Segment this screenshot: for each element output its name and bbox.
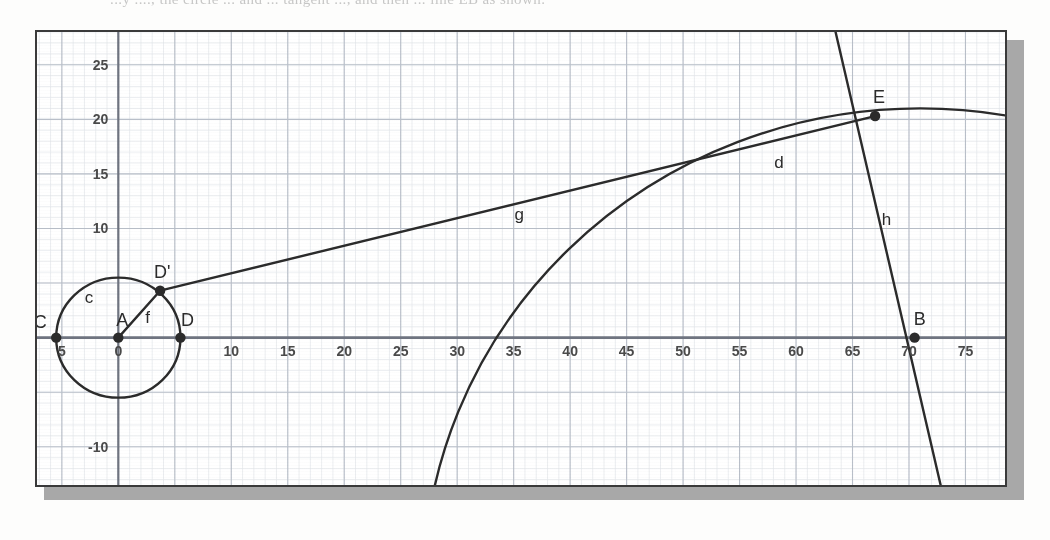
x-tick-label: 75 — [958, 343, 974, 359]
point-E — [870, 111, 880, 121]
segment-label-g: g — [515, 205, 524, 224]
x-tick-label: 60 — [788, 343, 804, 359]
x-tick-label: 5 — [58, 343, 66, 359]
point-label-C: C — [37, 312, 47, 332]
y-tick-label: 20 — [93, 111, 109, 127]
scanned-page: ...y ...., the circle ... and ... tangen… — [0, 0, 1050, 540]
plot-background — [37, 32, 1005, 485]
point-label-E: E — [873, 87, 885, 107]
curve-label-c: c — [85, 288, 94, 307]
x-tick-label: 30 — [449, 343, 465, 359]
x-tick-label: 15 — [280, 343, 296, 359]
point-D — [175, 332, 185, 342]
point-A — [113, 332, 123, 342]
x-tick-label: 20 — [336, 343, 352, 359]
segment-label-f: f — [145, 308, 150, 327]
x-tick-label: 0 — [114, 343, 122, 359]
point-Dp — [155, 286, 165, 296]
cropped-text-line: ...y ...., the circle ... and ... tangen… — [0, 0, 1050, 16]
x-tick-label: 35 — [506, 343, 522, 359]
x-tick-label: 10 — [223, 343, 239, 359]
x-tick-label: 25 — [393, 343, 409, 359]
x-tick-label: 65 — [845, 343, 861, 359]
curve-label-d: d — [774, 153, 783, 172]
y-tick-label: -10 — [88, 439, 108, 455]
x-tick-label: 40 — [562, 343, 578, 359]
x-tick-label: 45 — [619, 343, 635, 359]
x-tick-label: 55 — [732, 343, 748, 359]
point-C — [51, 332, 61, 342]
point-label-Dp: D' — [154, 262, 170, 282]
y-tick-label: 15 — [93, 166, 109, 182]
point-label-D: D — [181, 310, 194, 330]
x-tick-label: 70 — [901, 343, 917, 359]
segment-label-h: h — [882, 210, 891, 229]
x-tick-label: 50 — [675, 343, 691, 359]
y-tick-label: 25 — [93, 57, 109, 73]
point-label-A: A — [116, 310, 128, 330]
point-label-B: B — [914, 309, 926, 329]
point-B — [909, 332, 919, 342]
y-tick-label: 10 — [93, 220, 109, 236]
geometry-figure: 50101520253035404550556065707525201510-1… — [37, 32, 1005, 485]
cropped-text: ...y ...., the circle ... and ... tangen… — [110, 0, 545, 8]
figure-frame: 50101520253035404550556065707525201510-1… — [35, 30, 1007, 487]
